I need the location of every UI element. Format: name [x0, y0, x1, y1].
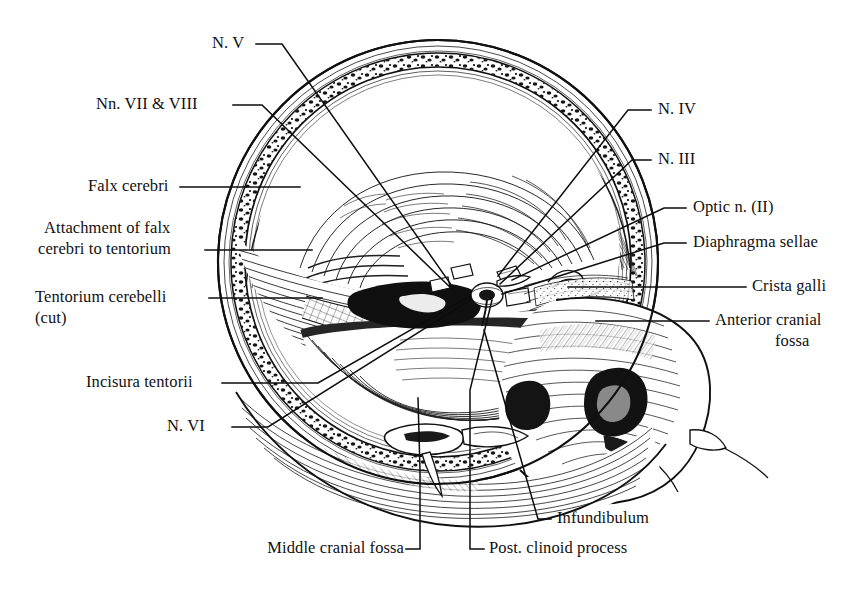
label-middle-cranial-fossa: Middle cranial fossa: [246, 538, 404, 557]
label-diaphragma-sellae: Diaphragma sellae: [693, 232, 818, 251]
label-attachment-falx-line2: cerebri to tentorium: [38, 239, 171, 258]
label-n-v: N. V: [212, 33, 244, 52]
label-tentorium-line2: (cut): [35, 308, 67, 327]
label-nn-vii-viii: Nn. VII & VIII: [96, 94, 198, 113]
label-crista-galli: Crista galli: [752, 276, 826, 295]
label-optic-n: Optic n. (II): [693, 197, 774, 216]
label-anterior-fossa-line1: Anterior cranial: [715, 310, 822, 329]
label-tentorium-line1: Tentorium cerebelli: [35, 287, 166, 306]
label-n-iii: N. III: [658, 149, 695, 168]
label-post-clinoid: Post. clinoid process: [489, 538, 627, 557]
label-anterior-fossa-line2: fossa: [775, 331, 809, 350]
label-infundibulum: Infundibulum: [557, 508, 649, 527]
label-n-vi: N. VI: [167, 416, 205, 435]
label-incisura-tentorii: Incisura tentorii: [86, 372, 193, 391]
label-n-iv: N. IV: [658, 99, 696, 118]
label-falx-cerebri: Falx cerebri: [88, 176, 168, 195]
label-attachment-falx-line1: Attachment of falx: [44, 218, 170, 237]
